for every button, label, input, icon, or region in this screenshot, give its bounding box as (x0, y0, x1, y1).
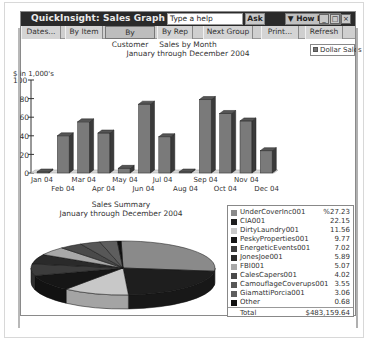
legend-value: 0.68 (334, 298, 350, 307)
legend-swatch (231, 264, 237, 270)
legend-swatch (231, 255, 237, 261)
legend-swatch (231, 246, 237, 252)
legend-label: CamouflageCoverups001 (240, 280, 329, 289)
legend-item: EnergeticEvents0017.02 (228, 244, 353, 253)
legend-swatch (231, 210, 237, 216)
legend-label: CalesCapers001 (240, 271, 297, 280)
legend-item: CIA00122.15 (228, 217, 353, 226)
legend-value: 11.56 (330, 226, 350, 235)
legend-value: 5.89 (334, 253, 350, 262)
legend-label: FBI001 (240, 262, 264, 271)
quickinsight-window: QuickInsight: Sales Graph Type a help qu… (20, 11, 356, 316)
legend-swatch (231, 228, 237, 234)
legend-label: JonesJoe001 (240, 253, 283, 262)
legend-label: DirtyLaundry001 (240, 226, 299, 235)
legend-item: FBI0015.07 (228, 262, 353, 271)
legend-swatch (231, 300, 237, 306)
legend-item: GiamattiPorcia0013.06 (228, 289, 353, 298)
x-tick-label: Dec 04 (254, 185, 279, 193)
legend-value: 3.55 (334, 280, 350, 289)
legend-value: 3.06 (334, 289, 350, 298)
legend-item: CamouflageCoverups0013.55 (228, 280, 353, 289)
legend-swatch (231, 219, 237, 225)
legend-label: EnergeticEvents001 (240, 244, 310, 253)
pie-chart-legend: Total $483,159.64 UnderCoverInc001%27.23… (227, 205, 354, 317)
legend-label: UnderCoverInc001 (240, 208, 305, 217)
legend-value: %27.23 (323, 208, 350, 217)
x-tick-label: Nov 04 (234, 176, 259, 184)
legend-value: 7.02 (334, 244, 350, 253)
legend-swatch (231, 273, 237, 279)
legend-value: 9.77 (334, 235, 350, 244)
legend-label: CIA001 (240, 217, 265, 226)
total-value: $483,159.64 (305, 308, 350, 318)
legend-value: 5.07 (334, 262, 350, 271)
legend-item: JonesJoe0015.89 (228, 253, 353, 262)
window-shadow-right (356, 28, 358, 328)
legend-item: PeskyProperties0019.77 (228, 235, 353, 244)
legend-item: DirtyLaundry00111.56 (228, 226, 353, 235)
total-label: Total (240, 308, 256, 318)
legend-item: CalesCapers0014.02 (228, 271, 353, 280)
window-shadow-left (18, 28, 20, 328)
pie-chart-plot (21, 12, 221, 317)
legend-swatch (231, 282, 237, 288)
legend-swatch (231, 291, 237, 297)
legend-item: UnderCoverInc001%27.23 (228, 208, 353, 217)
legend-item: Other0.68 (228, 298, 353, 307)
legend-value: 22.15 (330, 217, 350, 226)
legend-label: PeskyProperties001 (240, 235, 309, 244)
legend-label: Other (240, 298, 260, 307)
legend-swatch (231, 237, 237, 243)
legend-label: GiamattiPorcia001 (240, 289, 305, 298)
legend-total-row: Total $483,159.64 (228, 307, 353, 317)
legend-value: 4.02 (334, 271, 350, 280)
